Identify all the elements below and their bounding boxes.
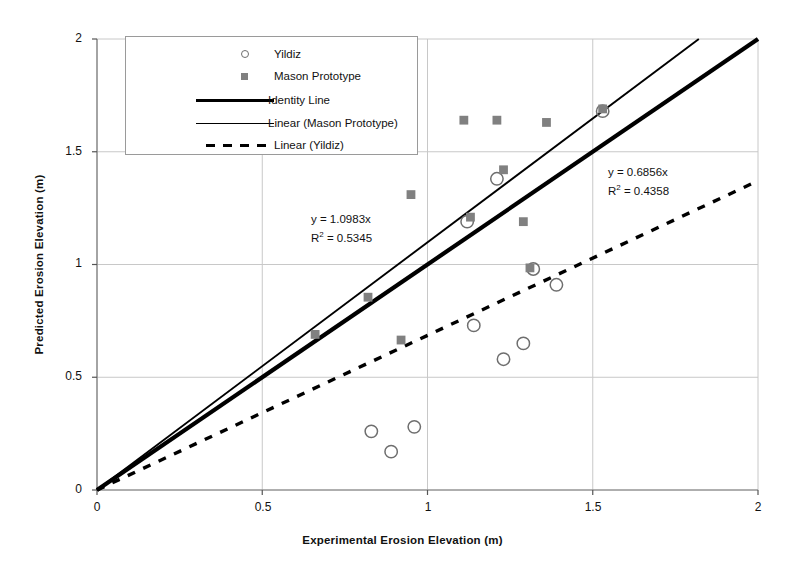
data-point-mason-prototype [466, 213, 475, 222]
thin-line-icon [232, 114, 268, 132]
data-point-yildiz [491, 173, 503, 185]
annotation-mason-fit: y = 1.0983x R2 = 0.5345 [311, 212, 372, 246]
legend-item-identity-line: Identity Line [126, 91, 417, 109]
legend-label: Linear (Mason Prototype) [268, 114, 398, 132]
data-point-mason-prototype [526, 263, 535, 272]
filled-square-icon [232, 67, 268, 85]
data-point-yildiz [517, 337, 529, 349]
legend-item-mason-prototype: Mason Prototype [126, 67, 417, 85]
y-tick-label: 0.5 [48, 369, 82, 383]
annotation-yildiz-fit: y = 0.6856x R2 = 0.4358 [608, 165, 669, 199]
y-tick-label: 1.5 [48, 144, 82, 158]
annotation-r2: R2 = 0.5345 [311, 227, 372, 246]
legend-label: Mason Prototype [274, 67, 361, 85]
data-point-yildiz [550, 279, 562, 291]
data-point-yildiz [365, 425, 377, 437]
data-point-mason-prototype [493, 116, 502, 125]
data-point-yildiz [468, 319, 480, 331]
legend-label: Identity Line [268, 91, 330, 109]
data-point-mason-prototype [542, 118, 551, 127]
data-point-mason-prototype [499, 165, 508, 174]
data-point-mason-prototype [598, 105, 607, 114]
x-tick-label: 0 [77, 500, 117, 514]
y-tick-label: 0 [48, 482, 82, 496]
legend-label: Linear (Yildiz) [274, 136, 344, 154]
x-tick-label: 1 [408, 500, 448, 514]
data-point-mason-prototype [311, 330, 320, 339]
data-point-yildiz [408, 421, 420, 433]
data-point-mason-prototype [519, 217, 528, 226]
x-axis-title: Experimental Erosion Elevation (m) [0, 534, 805, 546]
legend-label: Yildiz [274, 45, 301, 63]
y-tick-label: 1 [48, 256, 82, 270]
x-tick-label: 1.5 [573, 500, 613, 514]
annotation-r2: R2 = 0.4358 [608, 180, 669, 199]
data-point-mason-prototype [407, 190, 416, 199]
y-axis-title: Predicted Erosion Elevation (m) [30, 39, 48, 490]
dashed-line-icon [232, 136, 268, 154]
thick-line-icon [232, 91, 268, 109]
legend-item-linear-yildiz: Linear (Yildiz) [126, 136, 417, 154]
x-tick-label: 2 [738, 500, 778, 514]
x-tick-label: 0.5 [243, 500, 283, 514]
annotation-equation: y = 0.6856x [608, 165, 669, 180]
chart-legend: Yildiz Mason Prototype Identity Line Lin… [125, 36, 418, 155]
data-point-mason-prototype [459, 116, 468, 125]
data-point-mason-prototype [397, 336, 406, 345]
annotation-equation: y = 1.0983x [311, 212, 372, 227]
open-circle-icon [232, 45, 268, 63]
y-tick-label: 2 [48, 31, 82, 45]
data-point-yildiz [385, 445, 397, 457]
data-point-mason-prototype [364, 293, 373, 302]
legend-item-linear-mason: Linear (Mason Prototype) [126, 114, 417, 132]
legend-item-yildiz: Yildiz [126, 45, 417, 63]
data-point-yildiz [497, 353, 509, 365]
chart-figure: 2 1.5 1 0.5 0 0 0.5 1 1.5 2 Experimental… [0, 0, 805, 575]
